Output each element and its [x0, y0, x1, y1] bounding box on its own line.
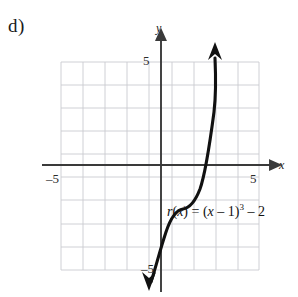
equation-minus-one: – 1 — [217, 204, 235, 219]
equation-close-paren: ) — [183, 204, 188, 219]
graph-figure: d) — [0, 0, 298, 297]
equation-minus-two: – 2 — [247, 204, 265, 219]
grid-lines — [61, 62, 259, 270]
y-axis-label: y — [156, 22, 161, 34]
equation-inner-variable: x — [208, 204, 214, 219]
x-axis-label: x — [279, 159, 284, 171]
function-curve — [142, 42, 222, 291]
x-axis-tick-5: 5 — [250, 172, 257, 185]
function-equation-label: r(x) = (x – 1)3 – 2 — [167, 205, 265, 219]
y-axis-tick-5: 5 — [143, 54, 150, 67]
equation-exponent: 3 — [239, 202, 244, 212]
x-axis-tick-negative-5: –5 — [46, 172, 59, 185]
equation-equals: = — [192, 204, 200, 219]
y-axis-tick-negative-5: –5 — [141, 262, 154, 275]
coordinate-plane-svg — [0, 0, 298, 297]
